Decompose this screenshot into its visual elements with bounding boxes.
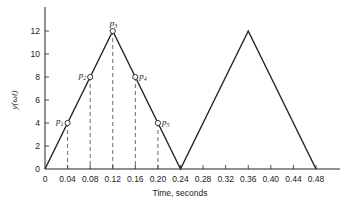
x-tick-label: 0.08 <box>82 174 99 184</box>
x-tick-label: 0.28 <box>195 174 212 184</box>
y-tick-label: 2 <box>35 141 40 151</box>
wave-line <box>45 31 316 169</box>
sample-point-label: p2 <box>78 70 87 81</box>
triangular-wave-chart: 00.040.080.120.160.200.240.280.320.360.4… <box>0 0 358 208</box>
x-axis-title: Time, seconds <box>153 188 208 198</box>
y-tick-label: 6 <box>35 95 40 105</box>
x-tick-label: 0.44 <box>285 174 302 184</box>
sample-point-marker <box>133 74 138 79</box>
y-tick-label: 0 <box>35 164 40 174</box>
y-tick-label: 4 <box>35 118 40 128</box>
sample-point-label: p3 <box>109 18 118 29</box>
data-series <box>45 31 316 169</box>
sample-point-label: p1 <box>55 116 63 127</box>
x-tick-label: 0 <box>43 174 48 184</box>
y-tick-label: 8 <box>35 72 40 82</box>
y-tick-label: 10 <box>31 49 41 59</box>
y-axis-title: y(ωt) <box>9 91 19 111</box>
sample-point-marker <box>88 74 93 79</box>
x-tick-label: 0.12 <box>104 174 121 184</box>
sample-point-label: p5 <box>161 117 170 128</box>
x-tick-label: 0.32 <box>217 174 234 184</box>
axes: 00.040.080.120.160.200.240.280.320.360.4… <box>31 7 340 184</box>
sample-drop-lines <box>68 31 158 169</box>
x-tick-label: 0.04 <box>59 174 76 184</box>
y-tick-label: 12 <box>31 26 41 36</box>
x-tick-label: 0.40 <box>263 174 280 184</box>
sample-point-marker <box>110 28 115 33</box>
x-tick-label: 0.36 <box>240 174 257 184</box>
sample-point-marker <box>65 120 70 125</box>
sample-point-label: p4 <box>138 71 147 82</box>
x-tick-label: 0.24 <box>172 174 189 184</box>
x-tick-label: 0.20 <box>150 174 167 184</box>
x-tick-label: 0.48 <box>308 174 325 184</box>
sample-point-marker <box>155 120 160 125</box>
x-tick-label: 0.16 <box>127 174 144 184</box>
